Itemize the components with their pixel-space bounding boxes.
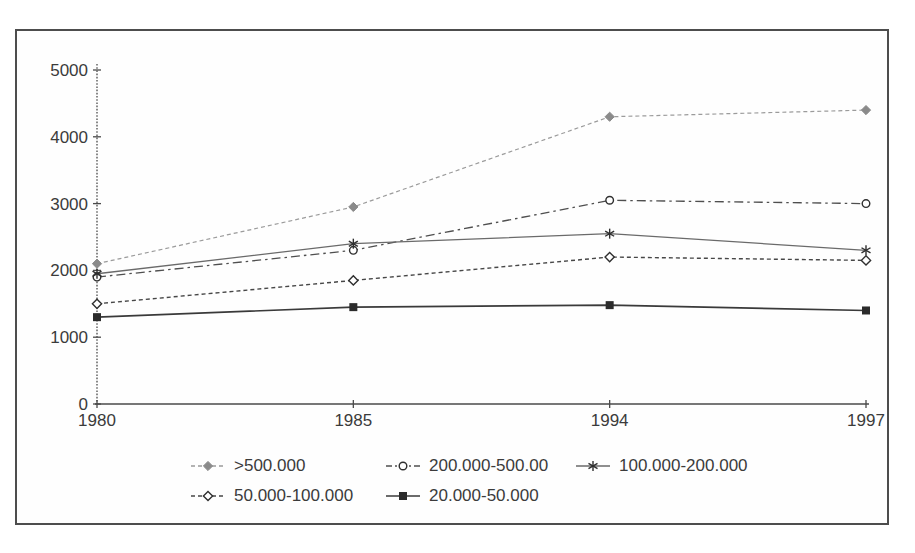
y-tick-label: 2000 <box>50 261 88 280</box>
legend-item: 20.000-50.000 <box>385 486 539 506</box>
legend-label: 20.000-50.000 <box>429 486 539 506</box>
diamond-open-marker-icon <box>92 299 101 308</box>
y-tick-label: 1000 <box>50 328 88 347</box>
square-filled-marker-icon <box>385 489 421 503</box>
legend-label: >500.000 <box>234 456 305 476</box>
square-filled-marker-icon <box>862 306 870 314</box>
series-line <box>97 110 866 264</box>
diamond-filled-marker-icon <box>861 105 870 114</box>
diamond-filled-marker-icon <box>203 461 212 470</box>
diamond-filled-marker-icon <box>605 112 614 121</box>
legend-label: 200.000-500.00 <box>429 456 548 476</box>
x-tick-label: 1980 <box>78 411 116 430</box>
circle-open-marker-icon <box>862 200 870 208</box>
diamond-open-marker-icon <box>861 256 870 265</box>
legend-label: 100.000-200.000 <box>619 456 748 476</box>
diamond-filled-marker-icon <box>92 259 101 268</box>
legend-item: 50.000-100.000 <box>190 486 353 506</box>
diamond-open-marker-icon <box>605 252 614 261</box>
legend-label: 50.000-100.000 <box>234 486 353 506</box>
x-tick-label: 1985 <box>334 411 372 430</box>
x-tick-label: 1994 <box>591 411 629 430</box>
diamond-filled-marker-icon <box>190 459 226 473</box>
series-line <box>97 305 866 317</box>
asterisk-marker-icon <box>575 459 611 473</box>
series-line <box>97 257 866 304</box>
diamond-open-marker-icon <box>349 276 358 285</box>
scanned-chart-page: 0100020003000400050001980198519941997 >5… <box>0 0 915 553</box>
diamond-open-marker-icon <box>190 489 226 503</box>
circle-open-marker-icon <box>385 459 421 473</box>
square-filled-marker-icon <box>606 301 614 309</box>
square-filled-marker-icon <box>399 492 407 500</box>
diamond-filled-marker-icon <box>349 202 358 211</box>
legend-item: >500.000 <box>190 456 305 476</box>
y-tick-label: 5000 <box>50 61 88 80</box>
series-line <box>97 234 866 274</box>
x-tick-label: 1997 <box>847 411 885 430</box>
y-tick-label: 4000 <box>50 128 88 147</box>
square-filled-marker-icon <box>349 303 357 311</box>
legend-item: 100.000-200.000 <box>575 456 748 476</box>
diamond-open-marker-icon <box>203 491 212 500</box>
y-tick-label: 3000 <box>50 195 88 214</box>
circle-open-marker-icon <box>606 196 614 204</box>
circle-open-marker-icon <box>399 462 407 470</box>
legend-item: 200.000-500.00 <box>385 456 548 476</box>
square-filled-marker-icon <box>93 313 101 321</box>
